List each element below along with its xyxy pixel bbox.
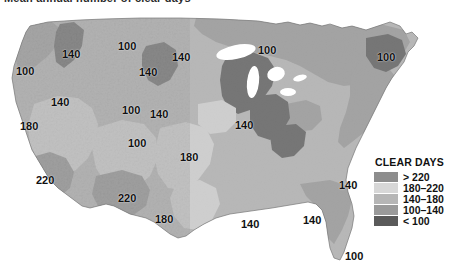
contour-label: 140 [139, 67, 157, 78]
legend-label: 180–220 [403, 183, 444, 193]
legend-label: 140–180 [403, 194, 444, 204]
contour-label: 180 [20, 121, 38, 132]
legend-swatch [374, 172, 398, 182]
contour-label: 140 [51, 97, 69, 108]
contour-label: 180 [180, 152, 198, 163]
legend-swatch [374, 183, 398, 193]
contour-label: 220 [118, 193, 136, 204]
legend-row: < 100 [374, 215, 450, 226]
legend-swatch [374, 194, 398, 204]
contour-label: 100 [258, 45, 276, 56]
contour-label: 100 [345, 251, 363, 262]
contour-label: 140 [339, 180, 357, 191]
contour-label: 140 [303, 215, 321, 226]
contour-label: 140 [172, 52, 190, 63]
contour-label: 100 [377, 52, 395, 63]
contour-label: 140 [150, 109, 168, 120]
legend-label: > 220 [403, 172, 430, 182]
figure-title: Mean annual number of clear days [4, 0, 191, 4]
map-figure: Mean annual number of clear days [0, 0, 450, 278]
contour-label: 100 [16, 66, 34, 77]
contour-label: 100 [118, 41, 136, 52]
legend-label: 100–140 [403, 205, 444, 215]
legend-swatch [374, 205, 398, 215]
contour-label: 140 [235, 120, 253, 131]
legend-swatch [374, 216, 398, 226]
legend-row: 140–180 [374, 193, 450, 204]
contour-label: 140 [62, 49, 80, 60]
contour-label: 100 [128, 138, 146, 149]
lake-erie [280, 88, 296, 96]
legend-row: 180–220 [374, 182, 450, 193]
contour-label: 100 [122, 105, 140, 116]
contour-label: 140 [241, 219, 259, 230]
legend-row: > 220 [374, 171, 450, 182]
legend-label: < 100 [403, 216, 430, 226]
legend-title: CLEAR DAYS [375, 156, 450, 168]
contour-label: 220 [36, 175, 54, 186]
contour-label: 180 [155, 214, 173, 225]
map-legend: CLEAR DAYS > 220 180–220 140–180 100–140… [374, 156, 450, 226]
map-canvas: 140 100 140 100 100 100 140 140 100 140 … [0, 8, 450, 270]
legend-row: 100–140 [374, 204, 450, 215]
